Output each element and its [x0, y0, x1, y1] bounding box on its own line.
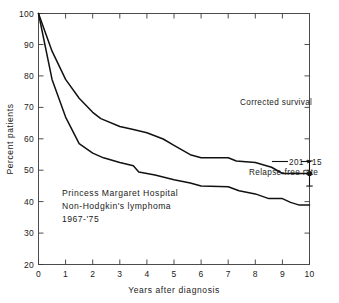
chart-canvas: 20 30 40 50 60 70 80 90 100 0 1 2 3 4 5 …: [0, 0, 339, 303]
x-axis-title: Years after diagnosis: [128, 285, 220, 295]
x-tick-label: 4: [144, 269, 149, 279]
y-tick-labels: 20 30 40 50 60 70 80 90 100: [19, 9, 34, 270]
y-tick-label: 30: [24, 228, 34, 238]
y-tick-label: 20: [24, 260, 34, 270]
x-tick-label: 9: [280, 269, 285, 279]
numbers-at-risk-end: 15: [312, 158, 322, 167]
numbers-at-risk-group: 201 15: [289, 158, 322, 167]
x-axis-ticks-top: [66, 14, 283, 19]
corrected-survival-label: Corrected survival: [240, 98, 312, 107]
y-tick-label: 70: [24, 102, 34, 112]
caption-line-disease: Non-Hodgkin's lymphoma: [62, 201, 171, 211]
x-tick-label: 0: [36, 269, 41, 279]
x-tick-label: 3: [117, 269, 122, 279]
y-tick-label: 80: [24, 71, 34, 81]
x-tick-label: 7: [226, 269, 231, 279]
x-tick-label: 10: [304, 269, 314, 279]
caption-block: Princess Margaret Hospital Non-Hodgkin's…: [62, 188, 178, 224]
curve-corrected-survival: [39, 14, 310, 174]
x-tick-label: 2: [90, 269, 95, 279]
x-tick-label: 1: [63, 269, 68, 279]
y-tick-label: 40: [24, 197, 34, 207]
x-tick-label: 8: [253, 269, 258, 279]
plot-frame: [39, 14, 310, 265]
y-tick-label: 90: [24, 40, 34, 50]
x-tick-label: 5: [171, 269, 176, 279]
caption-line-years: 1967-'75: [62, 214, 99, 224]
x-axis-ticks: [39, 260, 310, 265]
y-tick-label: 50: [24, 165, 34, 175]
survival-chart-figure: 20 30 40 50 60 70 80 90 100 0 1 2 3 4 5 …: [0, 0, 339, 303]
y-tick-label: 100: [19, 9, 34, 19]
x-tick-labels: 0 1 2 3 4 5 6 7 8 9 10: [36, 269, 315, 279]
x-tick-label: 6: [199, 269, 204, 279]
relapse-free-rate-label: Relapse-free rate: [249, 168, 318, 177]
y-axis-title: Percent patients: [5, 103, 15, 174]
caption-line-hospital: Princess Margaret Hospital: [62, 188, 178, 198]
y-tick-label: 60: [24, 134, 34, 144]
y-axis-ticks: [39, 14, 44, 265]
